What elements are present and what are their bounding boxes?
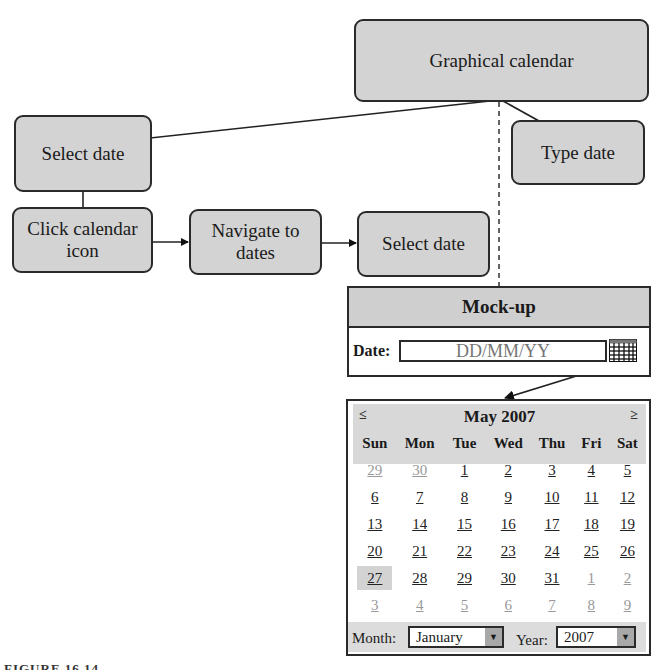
day-link[interactable]: 8 [461, 489, 469, 505]
day-cell: 14 [397, 516, 443, 533]
day-link[interactable]: 7 [416, 489, 424, 505]
month-select[interactable]: January ▼ [408, 626, 504, 648]
day-link[interactable]: 1 [461, 462, 469, 478]
year-select[interactable]: 2007 ▼ [556, 626, 636, 648]
day-link[interactable]: 26 [620, 543, 635, 559]
day-link[interactable]: 9 [505, 489, 513, 505]
calendar-grid-icon[interactable] [609, 339, 637, 362]
date-input[interactable] [399, 340, 607, 362]
day-cell: 26 [609, 543, 646, 560]
day-link[interactable]: 4 [416, 597, 424, 613]
day-link[interactable]: 5 [461, 597, 469, 613]
weekday-header-row: SunMonTueWedThuFriSat [353, 430, 646, 457]
day-link[interactable]: 21 [412, 543, 427, 559]
day-cell: 10 [530, 489, 574, 506]
next-month-button[interactable]: ≥ [630, 407, 638, 423]
day-link[interactable]: 3 [548, 462, 556, 478]
day-cell: 29 [353, 462, 397, 479]
node-label: Navigate to dates [191, 220, 320, 264]
day-cell: 5 [609, 462, 646, 479]
day-link[interactable]: 10 [544, 489, 559, 505]
day-cell: 27 [353, 570, 397, 587]
day-cell: 2 [486, 462, 530, 479]
node-click-calendar-icon: Click calendar icon [12, 207, 153, 273]
day-link[interactable]: 4 [588, 462, 596, 478]
day-cell: 15 [443, 516, 487, 533]
node-label: Select date [382, 233, 465, 255]
day-link[interactable]: 23 [501, 543, 516, 559]
weekday-header: Sun [353, 435, 397, 452]
day-cell: 29 [443, 570, 487, 587]
day-cell: 17 [530, 516, 574, 533]
day-cell: 28 [397, 570, 443, 587]
week-row: 272829303112 [353, 565, 646, 592]
day-cell: 16 [486, 516, 530, 533]
day-link[interactable]: 12 [620, 489, 635, 505]
date-row: Date: [349, 328, 649, 375]
day-link[interactable]: 2 [624, 570, 632, 586]
day-cell: 13 [353, 516, 397, 533]
day-link[interactable]: 9 [624, 597, 632, 613]
day-link[interactable]: 29 [367, 462, 382, 478]
dropdown-arrow-icon[interactable]: ▼ [485, 628, 502, 646]
day-cell: 9 [609, 597, 646, 614]
day-link[interactable]: 22 [457, 543, 472, 559]
day-cell: 8 [574, 597, 609, 614]
day-link[interactable]: 24 [544, 543, 559, 559]
day-link[interactable]: 19 [620, 516, 635, 532]
node-select-date-final: Select date [357, 211, 490, 277]
day-cell: 25 [574, 543, 609, 560]
day-link[interactable]: 6 [371, 489, 379, 505]
day-link[interactable]: 8 [588, 597, 596, 613]
week-row: 293012345 [353, 457, 646, 484]
day-link-selected[interactable]: 27 [357, 566, 392, 590]
day-cell: 3 [353, 597, 397, 614]
day-link[interactable]: 17 [544, 516, 559, 532]
year-label: Year: [516, 632, 548, 649]
day-link[interactable]: 3 [371, 597, 379, 613]
day-link[interactable]: 18 [584, 516, 599, 532]
weekday-header: Thu [530, 435, 574, 452]
link-root-to-select-date [95, 101, 490, 144]
day-link[interactable]: 13 [367, 516, 382, 532]
mockup-title: Mock-up [349, 288, 649, 328]
node-label: Select date [42, 143, 125, 165]
day-link[interactable]: 30 [501, 570, 516, 586]
day-link[interactable]: 15 [457, 516, 472, 532]
node-select-date: Select date [14, 115, 152, 192]
day-link[interactable]: 2 [505, 462, 513, 478]
node-graphical-calendar: Graphical calendar [354, 19, 649, 102]
weekday-header: Tue [443, 435, 487, 452]
day-cell: 2 [609, 570, 646, 587]
day-link[interactable]: 14 [412, 516, 427, 532]
day-link[interactable]: 6 [505, 597, 513, 613]
day-link[interactable]: 7 [548, 597, 556, 613]
day-cell: 30 [397, 462, 443, 479]
figure-caption: FIGURE 16.14 [4, 661, 99, 670]
day-cell: 9 [486, 489, 530, 506]
day-link[interactable]: 25 [584, 543, 599, 559]
day-link[interactable]: 11 [584, 489, 598, 505]
day-link[interactable]: 30 [412, 462, 427, 478]
mockup-panel: Mock-up Date: [347, 286, 651, 377]
calendar-grid: SunMonTueWedThuFriSat 293012345678910111… [353, 430, 646, 619]
month-value: January [416, 629, 463, 645]
day-link[interactable]: 16 [501, 516, 516, 532]
year-value: 2007 [564, 629, 594, 645]
day-cell: 31 [530, 570, 574, 587]
day-cell: 6 [486, 597, 530, 614]
day-cell: 12 [609, 489, 646, 506]
calendar-popup: ≤ May 2007 ≥ SunMonTueWedThuFriSat 29301… [346, 399, 651, 656]
node-type-date: Type date [511, 120, 645, 185]
node-label: Graphical calendar [430, 50, 574, 72]
day-link[interactable]: 5 [624, 462, 632, 478]
prev-month-button[interactable]: ≤ [359, 407, 367, 423]
day-link[interactable]: 28 [412, 570, 427, 586]
day-link[interactable]: 20 [367, 543, 382, 559]
day-link[interactable]: 1 [588, 570, 596, 586]
day-link[interactable]: 29 [457, 570, 472, 586]
month-label: Month: [352, 630, 396, 647]
day-link[interactable]: 31 [544, 570, 559, 586]
day-cell: 19 [609, 516, 646, 533]
dropdown-arrow-icon[interactable]: ▼ [617, 628, 634, 646]
